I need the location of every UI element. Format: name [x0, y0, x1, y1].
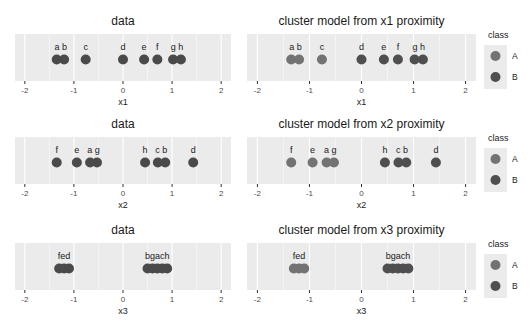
data-point-b: [160, 158, 170, 168]
legend-label-B: B: [512, 72, 518, 82]
x-tick-label: 0: [359, 86, 364, 95]
x-tick-label: -1: [70, 86, 78, 95]
point-label: a g: [324, 145, 337, 155]
panel-5: data-2-1012x3fedbgach: [15, 223, 231, 316]
x-axis-label: x3: [118, 306, 128, 316]
data-point-d: [118, 55, 128, 65]
data-point-f: [52, 158, 62, 168]
legend-3: classAB: [484, 239, 518, 298]
point-label: e: [74, 145, 79, 155]
x-tick-label: 1: [411, 86, 416, 95]
panel-title: cluster model from x2 proximity: [278, 117, 444, 131]
x-tick-label: 1: [411, 189, 416, 198]
point-label: bgach: [145, 251, 170, 261]
legend-label-B: B: [512, 175, 518, 185]
legend-key-A: [491, 51, 501, 61]
legend-key-B: [491, 281, 501, 291]
panel-title: data: [111, 14, 135, 28]
x-tick-label: -1: [306, 86, 314, 95]
point-label: d: [120, 42, 125, 52]
point-label: fed: [58, 251, 71, 261]
data-point-b: [294, 55, 304, 65]
point-label: d: [191, 145, 196, 155]
point-label: a b: [289, 42, 302, 52]
x-tick-label: 2: [463, 189, 468, 198]
point-label: c b: [396, 145, 408, 155]
x-tick-label: 1: [411, 295, 416, 304]
x-tick-label: -1: [70, 295, 78, 304]
point-label: e: [142, 42, 147, 52]
data-point-e: [308, 158, 318, 168]
x-tick-label: -2: [254, 189, 262, 198]
point-label: e: [310, 145, 315, 155]
x-tick-label: 0: [121, 86, 126, 95]
point-label: g h: [171, 42, 184, 52]
point-label: a g: [87, 145, 100, 155]
x-axis-label: x2: [118, 200, 128, 210]
legend-key-B: [491, 175, 501, 185]
legend-key-B: [491, 72, 501, 82]
legend-title: class: [488, 133, 509, 143]
x-axis-label: x3: [357, 306, 367, 316]
data-point-e: [72, 158, 82, 168]
point-label: c b: [155, 145, 167, 155]
data-point-d: [188, 158, 198, 168]
point-label: c: [320, 42, 325, 52]
point-label: a b: [54, 42, 67, 52]
x-tick-label: 2: [463, 295, 468, 304]
data-point-h: [403, 264, 413, 274]
x-tick-label: 1: [170, 189, 175, 198]
x-tick-label: 0: [121, 189, 126, 198]
x-axis-label: x1: [118, 97, 128, 107]
x-tick-label: -2: [254, 295, 262, 304]
x-tick-label: 2: [463, 86, 468, 95]
panel-6: cluster model from x3 proximity-2-1012x3…: [247, 223, 476, 316]
panel-title: cluster model from x1 proximity: [278, 14, 444, 28]
point-label: g h: [412, 42, 425, 52]
x-tick-label: 2: [219, 295, 224, 304]
legend-1: classAB: [484, 30, 518, 89]
data-point-c: [317, 55, 327, 65]
data-point-h: [176, 55, 186, 65]
point-label: d: [359, 42, 364, 52]
data-point-c: [81, 55, 91, 65]
legend-title: class: [488, 239, 509, 249]
data-point-e: [379, 55, 389, 65]
legend-label-A: A: [512, 260, 518, 270]
panel-title: data: [111, 117, 135, 131]
panel-2: cluster model from x1 proximity-2-1012x1…: [247, 14, 476, 107]
x-tick-label: -1: [306, 295, 314, 304]
x-tick-label: 1: [170, 295, 175, 304]
data-point-g: [329, 158, 339, 168]
legend-title: class: [488, 30, 509, 40]
x-tick-label: -2: [254, 86, 262, 95]
data-point-f: [393, 55, 403, 65]
point-label: h: [382, 145, 387, 155]
panel-1: data-2-1012x1a bcdefg h: [15, 14, 231, 107]
data-point-d: [299, 264, 309, 274]
data-point-b: [401, 158, 411, 168]
x-axis-label: x2: [357, 200, 367, 210]
point-label: fed: [293, 251, 306, 261]
point-label: d: [433, 145, 438, 155]
point-label: h: [143, 145, 148, 155]
data-point-h: [162, 264, 172, 274]
data-point-h: [418, 55, 428, 65]
panel-title: data: [111, 223, 135, 237]
data-point-d: [357, 55, 367, 65]
legend-key-A: [491, 154, 501, 164]
figure: data-2-1012x1a bcdefg hcluster model fro…: [0, 0, 531, 330]
legend-label-A: A: [512, 154, 518, 164]
data-point-h: [380, 158, 390, 168]
panel-title: cluster model from x3 proximity: [278, 223, 444, 237]
x-tick-label: 2: [219, 86, 224, 95]
legend-2: classAB: [484, 133, 518, 192]
x-tick-label: 2: [219, 189, 224, 198]
point-label: c: [83, 42, 88, 52]
point-label: e: [381, 42, 386, 52]
x-tick-label: -1: [306, 189, 314, 198]
data-point-d: [431, 158, 441, 168]
x-tick-label: 0: [359, 295, 364, 304]
panel-4: cluster model from x2 proximity-2-1012x2…: [247, 117, 476, 210]
legend-label-A: A: [512, 51, 518, 61]
